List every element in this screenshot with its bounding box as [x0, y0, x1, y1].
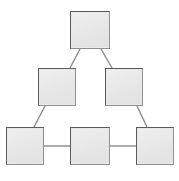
graph-node-middle-left[interactable] — [38, 68, 76, 106]
edge-top-middleright — [101, 49, 112, 68]
edge-middleleft-bottomleft — [34, 106, 45, 127]
graph-node-bottom-middle[interactable] — [70, 127, 110, 165]
graph-node-middle-right[interactable] — [105, 68, 143, 106]
graph-node-top[interactable] — [70, 11, 110, 49]
edge-top-middleleft — [70, 49, 80, 68]
edge-middleright-bottomright — [137, 106, 147, 127]
graph-node-bottom-right[interactable] — [136, 127, 174, 165]
node-diagram — [0, 0, 179, 181]
graph-node-bottom-left[interactable] — [6, 127, 44, 165]
